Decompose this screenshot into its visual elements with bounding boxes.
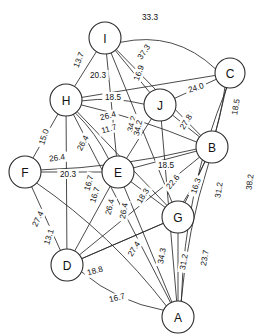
node-label-text: D [63, 259, 72, 273]
edge-label-text: 34.3 [156, 247, 168, 265]
graph-edge [120, 40, 215, 69]
edge-label-text: 18.5 [158, 161, 174, 170]
edge-label-text: 20.3 [90, 71, 106, 80]
edge-weight-label: 15.0 [36, 125, 52, 148]
edge-weight-label: 27.4 [124, 237, 144, 260]
graph-canvas: 33.313.737.316.934.227.820.318.526.411.7… [0, 0, 263, 336]
edge-weight-label: 34.3 [155, 245, 169, 268]
node-label-text: A [174, 311, 182, 325]
graph-node-b[interactable]: B [196, 131, 228, 163]
edge-label-text: 26.4 [118, 202, 130, 220]
node-label-text: J [157, 99, 163, 113]
graph-node-h[interactable]: H [50, 84, 82, 116]
edge-weight-label: 26.4 [46, 152, 69, 165]
edge-weight-label: 24.0 [184, 80, 207, 96]
node-label-text: G [173, 211, 182, 225]
graph-edge [66, 116, 67, 249]
graph-node-j[interactable]: J [144, 89, 176, 121]
edge-label-text: 26.4 [99, 110, 117, 123]
graph-node-f[interactable]: F [9, 156, 41, 188]
edge-label-text: 18.5 [105, 93, 121, 102]
edge-label-text: 20.3 [60, 170, 76, 179]
edge-weight-label: 26.4 [103, 195, 118, 218]
graph-node-d[interactable]: D [51, 249, 83, 281]
edge-weight-label: 38.2 [244, 171, 257, 193]
edge-weight-label: 27.4 [29, 207, 47, 231]
graph-node-e[interactable]: E [102, 156, 134, 188]
edge-weight-label: 20.3 [57, 169, 78, 179]
edge-label-text: 23.7 [199, 249, 211, 267]
edge-weight-label: 26.4 [74, 131, 93, 155]
node-label-text: I [103, 32, 106, 46]
node-label-text: C [226, 67, 235, 81]
edge-weight-label: 23.7 [198, 247, 212, 270]
edge-weight-label: 11.7 [97, 121, 120, 137]
edge-label-text: 18.8 [86, 264, 104, 277]
edge-weight-label: 18.5 [155, 160, 176, 170]
edge-weight-label: 18.5 [102, 92, 123, 102]
edge-weight-label: 31.2 [213, 179, 226, 202]
edge-weight-label: 31.2 [177, 251, 191, 274]
edge-weight-label: 18.5 [229, 96, 243, 119]
edge-weight-label: 16.9 [131, 61, 148, 85]
node-label-text: H [62, 94, 71, 108]
edge-weight-label: 16.7 [105, 291, 128, 306]
edge-weight-label: 33.3 [139, 12, 160, 22]
node-label-text: B [208, 141, 216, 155]
edge-label-text: 16.7 [108, 292, 126, 305]
edge-weight-label: 18.8 [83, 263, 106, 279]
nodes-layer: ICHJBFEGDA [9, 22, 245, 333]
graph-node-g[interactable]: G [162, 201, 194, 233]
node-label-text: E [114, 166, 122, 180]
graph-node-i[interactable]: I [89, 22, 121, 54]
edge-weight-label: 37.3 [134, 40, 154, 63]
node-label-text: F [21, 166, 28, 180]
edge-label-text: 33.3 [142, 13, 158, 22]
graph-edge [82, 223, 164, 258]
graph-edge [107, 54, 117, 156]
edge-weight-label: 26.4 [96, 109, 119, 124]
graph-node-c[interactable]: C [215, 58, 245, 88]
edge-weight-label: 20.3 [87, 70, 108, 80]
edge-label-text: 26.4 [104, 198, 117, 216]
edge-label-text: 18.5 [230, 98, 242, 116]
graph-node-a[interactable]: A [162, 301, 194, 333]
graph-svg: 33.313.737.316.934.227.820.318.526.411.7… [0, 0, 263, 336]
edge-label-text: 11.7 [100, 122, 118, 135]
edge-label-text: 31.2 [178, 253, 190, 271]
edge-weight-label: 13.7 [70, 48, 87, 72]
